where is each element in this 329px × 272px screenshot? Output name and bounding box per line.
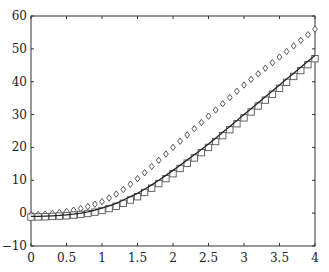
chart: 00.511.522.533.54 −100102030405060 [0,0,329,272]
y-tick-label: 50 [12,42,27,56]
diamond-marker [256,71,261,77]
diamond-marker [135,175,140,181]
series-layer [28,26,318,220]
diamond-marker [213,107,218,113]
square-marker [248,109,254,115]
x-axis: 00.511.522.533.54 [27,16,319,265]
diamond-marker [270,59,275,65]
y-tick-label: −10 [2,239,27,253]
series-curve [31,55,315,216]
diamond-marker [100,198,105,204]
diamond-marker [149,163,154,169]
y-tick-label: 30 [12,108,27,122]
diamond-marker [206,113,211,119]
diamond-marker [78,205,83,211]
x-tick-label: 3.5 [270,251,289,265]
x-tick-label: 0.5 [57,251,76,265]
diamond-marker [156,157,161,163]
x-tick-label: 1.5 [128,251,147,265]
diamond-marker [178,138,183,144]
y-tick-label: 60 [12,9,27,23]
diamond-marker [306,32,311,38]
diamond-marker [171,144,176,150]
diamond-marker [128,181,133,187]
diamond-marker [313,26,318,32]
diamond-marker [107,195,112,201]
y-tick-label: 40 [12,75,27,89]
diamond-marker [235,88,240,94]
y-tick-label: 20 [12,140,27,154]
diamond-marker [93,201,98,207]
y-tick-label: 10 [12,173,27,187]
series-diamonds [29,26,318,218]
diamond-marker [121,186,126,192]
diamond-marker [249,76,254,82]
diamond-marker [192,126,197,132]
diamond-marker [263,65,268,71]
diamond-marker [85,203,90,209]
diamond-marker [185,132,190,138]
y-tick-label: 0 [19,206,27,220]
diamond-marker [220,101,225,107]
diamond-marker [291,43,296,49]
x-tick-label: 2.5 [199,251,218,265]
diamond-marker [199,119,204,125]
diamond-marker [164,151,169,157]
diamond-marker [142,170,147,176]
x-tick-label: 3 [240,251,248,265]
x-tick-label: 4 [311,251,319,265]
x-tick-label: 0 [27,251,35,265]
x-tick-label: 2 [169,251,177,265]
diamond-marker [284,48,289,54]
square-marker [70,212,76,218]
diamond-marker [227,94,232,100]
square-marker [298,67,304,73]
square-marker [28,214,34,220]
diamond-marker [277,54,282,60]
curve-line [31,55,315,216]
series-squares [28,56,318,221]
diamond-marker [114,191,119,197]
square-marker [63,213,69,219]
x-tick-label: 1 [98,251,106,265]
diamond-marker [298,37,303,43]
diamond-marker [242,82,247,88]
